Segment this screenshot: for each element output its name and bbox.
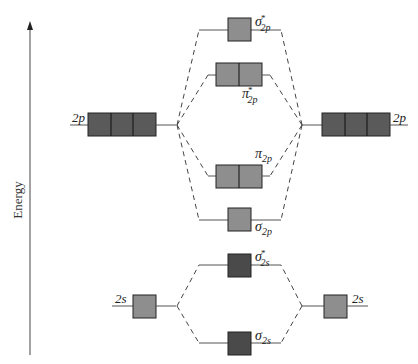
arrow-up-icon <box>27 21 33 30</box>
left-2p-orbital: 2p <box>70 110 176 136</box>
energy-axis: Energy <box>10 21 33 355</box>
right-2s-orbital: 2s <box>302 291 368 318</box>
energy-axis-label: Energy <box>10 181 25 219</box>
2p-correlation-lines <box>177 30 302 220</box>
right-2s-label: 2s <box>352 291 364 306</box>
pi-star-2p-orbital: π*2p <box>208 63 270 105</box>
right-2p-label: 2p <box>393 110 407 125</box>
sigma-star-2p-orbital: σ*2p <box>199 13 281 41</box>
pi-2p-label: π2p <box>255 146 272 164</box>
mo-diagram: Energy 2p 2p σ*2p <box>0 0 418 364</box>
right-2p-orbital: 2p <box>302 110 408 136</box>
left-2p-label: 2p <box>72 110 86 125</box>
sigma-2p-label: σ2p <box>255 219 272 237</box>
sigma-2p-orbital: σ2p <box>199 208 281 237</box>
pi-star-2p-label: π*2p <box>242 85 258 105</box>
sigma-star-2s-orbital: σ*2s <box>199 248 281 277</box>
pi-2p-orbital: π2p <box>208 146 272 188</box>
left-2s-orbital: 2s <box>112 291 176 318</box>
sigma-2s-orbital: σ2s <box>199 328 281 355</box>
left-2s-label: 2s <box>115 291 127 306</box>
